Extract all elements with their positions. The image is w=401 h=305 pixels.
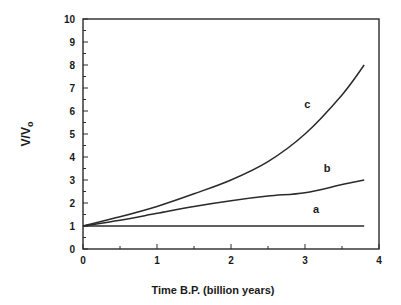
y-tick-label: 4 (69, 152, 75, 163)
y-tick-label: 3 (69, 175, 75, 186)
series-label-b: b (324, 162, 331, 174)
series-labels: abc (304, 98, 331, 216)
x-tick-label: 4 (376, 255, 382, 266)
x-tick-label: 3 (302, 255, 308, 266)
y-tick-label: 5 (69, 129, 75, 140)
tick-labels: 01234012345678910 (64, 14, 382, 266)
x-axis-label: Time B.P. (billion years) (151, 284, 274, 296)
y-tick-label: 8 (69, 60, 75, 71)
x-tick-label: 1 (154, 255, 160, 266)
y-tick-label: 1 (69, 221, 75, 232)
y-axis-label-main: V/V (19, 127, 33, 146)
x-tick-label: 2 (228, 255, 234, 266)
data-series (83, 65, 364, 226)
y-axis-label: V/Vo (19, 121, 35, 146)
series-label-c: c (304, 98, 310, 110)
y-tick-label: 0 (69, 244, 75, 255)
y-tick-label: 9 (69, 37, 75, 48)
y-tick-label: 7 (69, 83, 75, 94)
line-chart: 01234012345678910 abc Time B.P. (billion… (0, 0, 401, 305)
y-tick-label: 10 (64, 14, 76, 25)
series-line-b (83, 180, 364, 226)
y-axis-label-subscript: o (25, 121, 35, 127)
y-tick-label: 6 (69, 106, 75, 117)
x-tick-label: 0 (80, 255, 86, 266)
series-label-a: a (313, 203, 320, 215)
y-tick-label: 2 (69, 198, 75, 209)
